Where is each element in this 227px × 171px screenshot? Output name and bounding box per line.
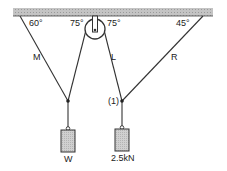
rope-pulley-left	[68, 32, 86, 101]
weight-2-5kn-label: 2.5kN	[111, 153, 135, 163]
angle-60-label: 60°	[29, 18, 43, 28]
knot-right	[120, 99, 124, 103]
ceiling	[13, 8, 213, 16]
rope-l	[105, 32, 123, 101]
weight-2-5kn	[115, 129, 129, 151]
weight-w	[61, 130, 75, 152]
angle-45-label: 45°	[176, 18, 190, 28]
rope-r	[122, 16, 203, 101]
angle-75-left-label: 75°	[70, 18, 84, 28]
joint-1-label: (1)	[108, 96, 119, 106]
pulley	[85, 16, 105, 39]
angle-75-right-label: 75°	[107, 18, 121, 28]
pulley-diagram: 60° 75° 75° 45° M L R (1) W 2.5kN	[0, 0, 227, 171]
ropes	[20, 16, 203, 127]
rope-l-label: L	[111, 52, 116, 62]
rope-m-label: M	[33, 52, 41, 62]
rope-r-label: R	[171, 52, 178, 62]
rope-m	[20, 16, 68, 101]
weight-w-label: W	[64, 154, 73, 164]
knot-left	[66, 99, 70, 103]
